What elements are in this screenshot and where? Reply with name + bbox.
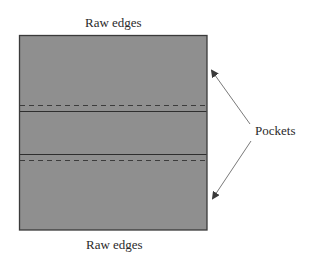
raw-edges-bottom-label: Raw edges [86, 238, 143, 251]
lower-pocket-arrow [213, 141, 251, 198]
fabric-panel [20, 36, 208, 231]
raw-edges-top-label: Raw edges [85, 16, 142, 29]
upper-pocket-arrow [212, 71, 250, 124]
pockets-label: Pockets [255, 124, 295, 137]
